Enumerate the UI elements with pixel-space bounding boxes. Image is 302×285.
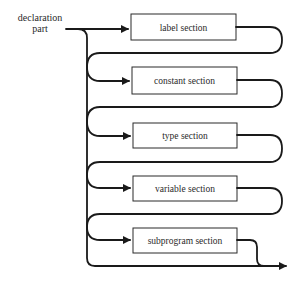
arrow-to-constant-section — [87, 53, 129, 81]
arrow-to-subprogram-section — [87, 214, 130, 240]
diagram-svg: declaration part label section constant … — [0, 0, 302, 285]
syntax-diagram: declaration part label section constant … — [0, 0, 302, 285]
entry-label-line1: declaration — [18, 12, 62, 23]
subprogram-section-label: subprogram section — [148, 236, 223, 246]
arrow-to-type-section — [87, 107, 130, 136]
type-section-label: type section — [162, 131, 208, 141]
entry-label-line2: part — [32, 23, 48, 34]
arrow-to-variable-section — [87, 162, 130, 188]
label-section-label: label section — [160, 23, 208, 33]
variable-section-label: variable section — [155, 184, 215, 194]
exit-path — [237, 240, 264, 266]
constant-section-label: constant section — [154, 76, 215, 86]
